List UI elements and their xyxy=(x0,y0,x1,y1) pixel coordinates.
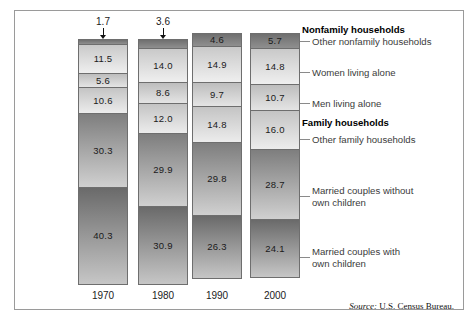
legend-item-other-nonfamily: Other nonfamily households xyxy=(312,36,431,48)
segment-1990-men-alone[interactable]: 9.7 xyxy=(192,82,242,106)
segment-1990-married-without-children[interactable]: 29.8 xyxy=(192,142,242,215)
segment-value: 29.8 xyxy=(207,174,226,184)
legend-line-2: own children xyxy=(312,258,366,269)
segment-value: 8.6 xyxy=(156,88,170,98)
axis-label-1970: 1970 xyxy=(78,290,128,301)
segment-2000-other-nonfamily[interactable]: 5.7 xyxy=(250,33,300,48)
segment-value: 40.3 xyxy=(93,231,112,241)
legend-item-women-alone: Women living alone xyxy=(312,67,396,79)
segment-value: 24.1 xyxy=(265,244,284,254)
segment-value: 5.6 xyxy=(96,76,110,86)
axis-label-1980: 1980 xyxy=(138,290,188,301)
segment-value: 4.6 xyxy=(210,35,224,45)
source-prefix: Source: xyxy=(349,301,377,311)
segment-value: 11.5 xyxy=(94,54,113,64)
segment-1970-women-alone[interactable]: 11.5 xyxy=(78,44,128,73)
segment-value: 29.9 xyxy=(153,165,172,175)
source-text: U.S. Census Bureau. xyxy=(379,301,454,311)
segment-1980-other-nonfamily[interactable] xyxy=(138,39,188,48)
segment-1990-other-nonfamily[interactable]: 4.6 xyxy=(192,33,242,46)
legend-item-married-without-children: Married couples without own children xyxy=(312,185,413,209)
segment-1980-married-without-children[interactable]: 29.9 xyxy=(138,133,188,206)
segment-2000-women-alone[interactable]: 14.8 xyxy=(250,48,300,84)
segment-1970-married-without-children[interactable]: 30.3 xyxy=(78,113,128,187)
segment-value: 16.0 xyxy=(265,125,284,135)
segment-value: 28.7 xyxy=(265,180,284,190)
segment-1990-other-family[interactable]: 14.8 xyxy=(192,106,242,142)
chart-root: 1.7 3.6 11.5 5.6 10.6 30.3 40.3 14.0 8.6… xyxy=(0,0,476,327)
callout-1980-value: 3.6 xyxy=(143,16,183,27)
segment-1990-women-alone[interactable]: 14.9 xyxy=(192,46,242,82)
legend-item-men-alone: Men living alone xyxy=(312,98,381,110)
segment-1970-married-with-children[interactable]: 40.3 xyxy=(78,187,128,285)
segment-value: 26.3 xyxy=(207,242,226,252)
bar-2000[interactable]: 5.7 14.8 10.7 16.0 28.7 24.1 xyxy=(250,33,300,278)
segment-1980-other-family[interactable]: 12.0 xyxy=(138,103,188,133)
segment-value: 14.8 xyxy=(265,62,284,72)
leader-other-family xyxy=(300,139,310,140)
segment-value: 9.7 xyxy=(210,90,224,100)
segment-value: 30.9 xyxy=(153,241,172,251)
leader-men-alone xyxy=(300,103,310,104)
segment-1980-women-alone[interactable]: 14.0 xyxy=(138,48,188,82)
leader-married-without-children xyxy=(300,196,310,197)
segment-value: 14.8 xyxy=(207,120,226,130)
callout-1970-value: 1.7 xyxy=(83,16,123,27)
segment-value: 14.9 xyxy=(207,60,226,70)
segment-value: 5.7 xyxy=(268,36,282,46)
segment-1980-men-alone[interactable]: 8.6 xyxy=(138,82,188,103)
segment-value: 30.3 xyxy=(93,146,112,156)
bar-1970[interactable]: 11.5 5.6 10.6 30.3 40.3 xyxy=(78,39,128,285)
leader-married-with-children xyxy=(300,257,310,258)
segment-2000-men-alone[interactable]: 10.7 xyxy=(250,84,300,110)
segment-1990-married-with-children[interactable]: 26.3 xyxy=(192,215,242,279)
bar-1980[interactable]: 14.0 8.6 12.0 29.9 30.9 xyxy=(138,39,188,285)
segment-2000-other-family[interactable]: 16.0 xyxy=(250,110,300,149)
legend-line-1: Married couples with xyxy=(312,246,400,257)
segment-1980-married-with-children[interactable]: 30.9 xyxy=(138,206,188,285)
leader-women-alone xyxy=(300,72,310,73)
legend-group-family: Family households xyxy=(302,117,389,129)
axis-label-2000: 2000 xyxy=(250,290,300,301)
segment-2000-married-without-children[interactable]: 28.7 xyxy=(250,149,300,219)
segment-value: 12.0 xyxy=(153,114,172,124)
legend-line-2: own children xyxy=(312,197,366,208)
legend-item-other-family: Other family households xyxy=(312,134,415,146)
segment-1970-men-alone[interactable]: 5.6 xyxy=(78,73,128,87)
legend-line-1: Married couples without xyxy=(312,185,413,196)
bar-1990[interactable]: 4.6 14.9 9.7 14.8 29.8 26.3 xyxy=(192,33,242,279)
segment-value: 14.0 xyxy=(153,61,172,71)
legend-group-nonfamily: Nonfamily households xyxy=(302,24,405,36)
source-note: Source: U.S. Census Bureau. xyxy=(349,301,454,311)
legend-item-married-with-children: Married couples with own children xyxy=(312,246,400,270)
segment-2000-married-with-children[interactable]: 24.1 xyxy=(250,219,300,278)
leader-other-nonfamily xyxy=(300,41,310,42)
segment-value: 10.6 xyxy=(93,96,112,106)
segment-value: 10.7 xyxy=(265,93,284,103)
axis-label-1990: 1990 xyxy=(192,290,242,301)
segment-1970-other-family[interactable]: 10.6 xyxy=(78,87,128,113)
